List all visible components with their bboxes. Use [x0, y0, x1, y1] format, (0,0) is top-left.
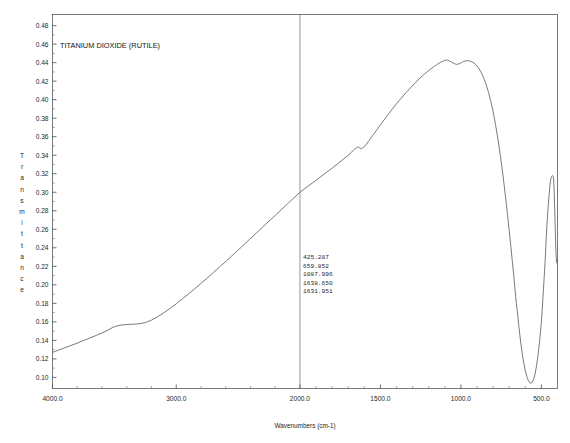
- y-tick-label: 0.12: [36, 355, 49, 362]
- peak-value-item: 425.287: [303, 254, 329, 261]
- peak-value-item: 659.852: [303, 263, 329, 270]
- y-tick-label: 0.40: [36, 96, 49, 103]
- y-axis-title-letter: T: [20, 152, 24, 159]
- y-tick-label: 0.38: [36, 115, 49, 122]
- y-axis-title-letter: n: [20, 264, 24, 271]
- y-axis-title-letter: m: [19, 208, 25, 215]
- x-tick-label: 3000.0: [166, 395, 187, 402]
- y-tick-label: 0.48: [36, 22, 49, 29]
- y-axis-title-letter: t: [21, 242, 23, 249]
- y-tick-label: 0.30: [36, 189, 49, 196]
- y-axis-title-letter: n: [20, 186, 24, 193]
- x-tick-label: 1500.0: [370, 395, 391, 402]
- y-tick-label: 0.36: [36, 133, 49, 140]
- peak-value-item: 1638.650: [303, 280, 333, 287]
- y-tick-label: 0.24: [36, 244, 49, 251]
- y-tick-label: 0.22: [36, 263, 49, 270]
- x-axis-title: Wavenumbers (cm-1): [274, 422, 335, 430]
- y-tick-label: 0.14: [36, 337, 49, 344]
- y-axis-title-letter: e: [20, 286, 24, 293]
- ftir-spectrum-chart: 0.480.460.440.420.400.380.360.340.320.30…: [0, 0, 570, 443]
- y-tick-label: 0.32: [36, 170, 49, 177]
- y-tick-label: 0.16: [36, 318, 49, 325]
- peak-value-list: 425.287659.8521087.9961638.6501631.951: [303, 254, 333, 295]
- peak-value-item: 1631.951: [303, 288, 333, 295]
- y-axis-title-letter: t: [21, 230, 23, 237]
- y-tick-label: 0.20: [36, 281, 49, 288]
- x-tick-label: 1000.0: [451, 395, 472, 402]
- y-tick-label: 0.34: [36, 152, 49, 159]
- y-tick-label: 0.18: [36, 300, 49, 307]
- plot-frame: [53, 15, 558, 389]
- y-tick-label: 0.42: [36, 78, 49, 85]
- peak-value-item: 1087.996: [303, 271, 333, 278]
- y-axis-title-letter: a: [20, 174, 24, 181]
- x-tick-label: 2000.0: [290, 395, 311, 402]
- chart-title: TITANIUM DIOXIDE (RUTILE): [60, 41, 160, 50]
- y-tick-label: 0.44: [36, 59, 49, 66]
- y-axis-title-letter: a: [20, 253, 24, 260]
- y-tick-label: 0.46: [36, 41, 49, 48]
- x-tick-label: 500.0: [533, 395, 550, 402]
- y-tick-label: 0.26: [36, 226, 49, 233]
- x-tick-label: 4000.0: [42, 395, 63, 402]
- y-tick-label: 0.28: [36, 207, 49, 214]
- y-tick-label: 0.10: [36, 374, 49, 381]
